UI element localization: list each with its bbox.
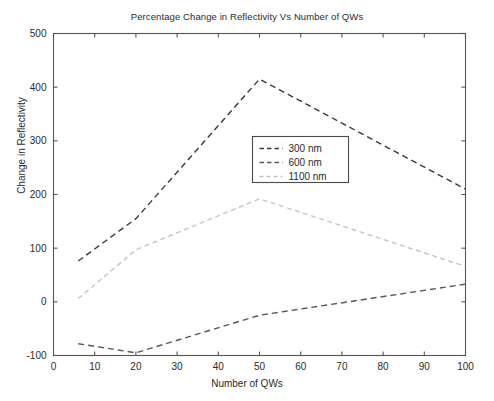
- y-tick-label: 300: [30, 135, 47, 146]
- data-series: [78, 79, 465, 353]
- x-tick-label: 70: [336, 361, 348, 372]
- x-tick-label: 80: [378, 361, 390, 372]
- y-tick-label: 100: [30, 243, 47, 254]
- x-tick-label: 10: [89, 361, 101, 372]
- x-tick-label: 90: [419, 361, 431, 372]
- chart-legend: 300 nm600 nm1100 nm: [253, 137, 349, 183]
- y-tick-labels: 5004003002001000-100: [26, 28, 46, 361]
- axes: [54, 34, 466, 356]
- y-tick-label: -100: [26, 350, 46, 361]
- chart-figure: Percentage Change in Reflectivity Vs Num…: [0, 0, 494, 401]
- y-tick-label: 0: [41, 296, 47, 307]
- y-tick-label: 200: [30, 189, 47, 200]
- x-tick-label: 60: [295, 361, 307, 372]
- y-tick-label: 500: [30, 28, 47, 39]
- x-tick-label: 50: [254, 361, 266, 372]
- x-tick-label: 0: [51, 361, 57, 372]
- x-tick-label: 40: [213, 361, 225, 372]
- x-tick-labels: 0102030405060708090100: [51, 361, 475, 372]
- legend-label-600-nm: 600 nm: [289, 157, 322, 168]
- series-line-600-nm: [78, 284, 465, 353]
- y-tick-label: 400: [30, 82, 47, 93]
- tick-marks: [54, 34, 466, 356]
- series-line-1100-nm: [78, 199, 465, 299]
- x-tick-label: 20: [130, 361, 142, 372]
- x-tick-label: 100: [457, 361, 474, 372]
- x-tick-label: 30: [172, 361, 184, 372]
- legend-label-1100-nm: 1100 nm: [289, 171, 327, 182]
- plot-area: 0102030405060708090100 5004003002001000-…: [0, 0, 494, 401]
- legend-label-300-nm: 300 nm: [289, 143, 322, 154]
